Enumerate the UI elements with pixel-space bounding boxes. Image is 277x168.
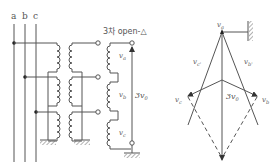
diagram-canvas: a b c <box>0 0 277 168</box>
phasor-vc-prime <box>188 32 222 125</box>
edge-label-vc-prime: vc' <box>193 58 201 67</box>
dashed-right <box>222 97 257 158</box>
secondary-windings <box>69 41 100 145</box>
terminal-bottom <box>130 141 134 145</box>
open-delta-title: 3차 open-△ <box>103 27 147 36</box>
circuit: a b c <box>11 11 149 162</box>
phasor-vb-prime <box>222 32 258 125</box>
phase-label-b: b <box>22 11 28 21</box>
ground-icon <box>249 21 253 41</box>
tertiary-open-delta: 3차 open-△ va vb vc 3v0 <box>103 27 149 158</box>
phase-label-a: a <box>11 11 17 21</box>
primary-windings <box>40 43 60 145</box>
vertex-label-va: va <box>217 21 224 30</box>
output-voltage-label: 3v0 <box>135 91 149 101</box>
edge-label-vb-prime: vb' <box>244 58 253 67</box>
winding-label-va: va <box>119 52 126 61</box>
terminal-top <box>130 41 134 45</box>
winding-label-vb: vb <box>119 91 126 100</box>
vertex-label-vb: vb <box>262 96 269 105</box>
ground-icon <box>124 154 140 158</box>
winding-label-vc: vc <box>119 129 126 138</box>
dashed-left <box>188 97 222 158</box>
phasor-diagram: va vc' vb' vc vb 3v0 <box>175 21 269 160</box>
phasor-vc <box>188 80 222 96</box>
phase-label-c: c <box>33 11 38 21</box>
resultant-label: 3v0 <box>226 92 240 102</box>
vertex-label-vc: vc <box>175 96 182 105</box>
